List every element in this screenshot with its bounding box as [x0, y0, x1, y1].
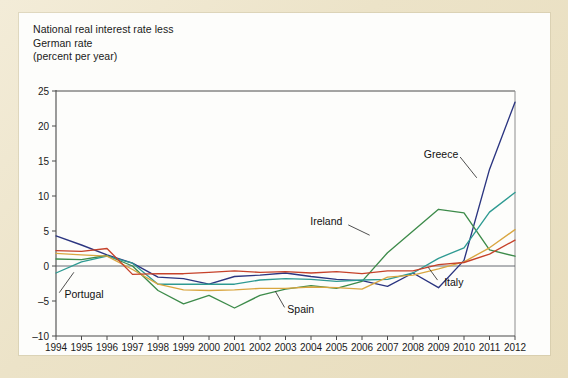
x-axis-tick-label: 1999	[172, 342, 195, 353]
x-axis-tick-label: 2007	[376, 342, 399, 353]
series-annotation-greece: Greece	[424, 148, 477, 178]
x-axis-tick-label: 2009	[427, 342, 450, 353]
series-line	[56, 193, 515, 285]
leader-line	[348, 225, 369, 235]
y-axis-tick-label: 20	[38, 121, 50, 132]
x-axis-tick-label: 2006	[351, 342, 374, 353]
series-label: Spain	[287, 303, 314, 315]
x-axis-tick-label: 2008	[402, 342, 425, 353]
series-annotation-spain: Spain	[275, 291, 314, 315]
x-axis-tick-label: 2004	[300, 342, 323, 353]
series-label: Greece	[424, 148, 459, 160]
x-axis-tick-label: 1998	[147, 342, 170, 353]
x-axis-tick-label: 2001	[223, 342, 246, 353]
series-portugal	[56, 193, 515, 285]
leader-line	[275, 291, 284, 307]
series-annotation-ireland: Ireland	[310, 215, 369, 235]
line-chart: –10–505101520251994199519961997199819992…	[19, 13, 550, 355]
series-annotation-portugal: Portugal	[59, 272, 103, 300]
series-label: Ireland	[310, 215, 342, 227]
series-line	[56, 209, 515, 308]
chart-paper: National real interest rate less German …	[19, 13, 550, 355]
x-axis-tick-label: 1994	[45, 342, 68, 353]
series-label: Italy	[444, 276, 464, 288]
x-axis-tick-label: 1995	[70, 342, 93, 353]
y-axis-tick-label: 5	[43, 226, 49, 237]
x-axis-tick-label: 2002	[249, 342, 272, 353]
y-axis-tick-label: 25	[38, 86, 50, 97]
x-axis-tick-label: 2010	[453, 342, 476, 353]
x-axis-tick-label: 2011	[479, 342, 501, 353]
leader-line	[460, 157, 477, 178]
series-ireland	[56, 209, 515, 308]
series-line	[56, 240, 515, 274]
y-axis-tick-label: 10	[38, 191, 50, 202]
figure-frame: National real interest rate less German …	[0, 0, 568, 378]
y-axis-tick-label: –5	[38, 296, 50, 307]
y-axis-tick-label: –10	[32, 331, 49, 342]
x-axis-tick-label: 1997	[121, 342, 144, 353]
x-axis-tick-label: 2003	[274, 342, 297, 353]
x-axis-tick-label: 2000	[198, 342, 221, 353]
chart-axes: –10–505101520251994199519961997199819992…	[32, 86, 526, 353]
y-axis-tick-label: 0	[43, 261, 49, 272]
series-line	[56, 102, 515, 288]
series-label: Portugal	[64, 288, 103, 300]
x-axis-tick-label: 2005	[325, 342, 348, 353]
x-axis-tick-label: 1996	[96, 342, 119, 353]
y-axis-tick-label: 15	[38, 156, 50, 167]
series-greece	[56, 102, 515, 288]
x-axis-tick-label: 2012	[504, 342, 527, 353]
series-italy	[56, 240, 515, 274]
